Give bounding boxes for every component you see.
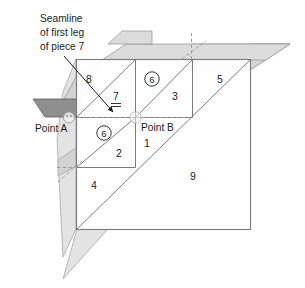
point-a-marker-dot-left [66, 115, 68, 117]
point-a-label: Point A [35, 123, 67, 134]
piece-label-1: 1 [144, 137, 150, 149]
piece-label-5: 5 [217, 73, 223, 85]
callout-line-1: Seamline [40, 13, 83, 24]
seamline-diagram: Seamline of first leg of piece 7 Point A… [0, 0, 305, 288]
piece-label-3: 3 [172, 90, 178, 102]
piece-label-7: 7 [113, 90, 119, 102]
callout-line-3: of piece 7 [40, 41, 85, 52]
diagram-canvas: Seamline of first leg of piece 7 Point A… [0, 0, 305, 288]
point-b-marker [130, 112, 141, 123]
flap-top-band [102, 44, 290, 60]
callout-line-2: of first leg [40, 27, 84, 38]
piece-label-2: 2 [116, 147, 122, 159]
point-b-label: Point B [141, 122, 174, 133]
piece-label-6-lower: 6 [101, 128, 106, 139]
point-a-marker [63, 112, 74, 123]
piece-label-8: 8 [86, 73, 92, 85]
piece-label-9: 9 [190, 170, 196, 182]
callout-label: Seamline of first leg of piece 7 [40, 13, 85, 52]
piece-label-4: 4 [91, 179, 97, 191]
point-a-marker-dot-right [70, 115, 72, 117]
piece-label-6-upper: 6 [149, 74, 154, 85]
flap-top-tab [108, 31, 152, 44]
